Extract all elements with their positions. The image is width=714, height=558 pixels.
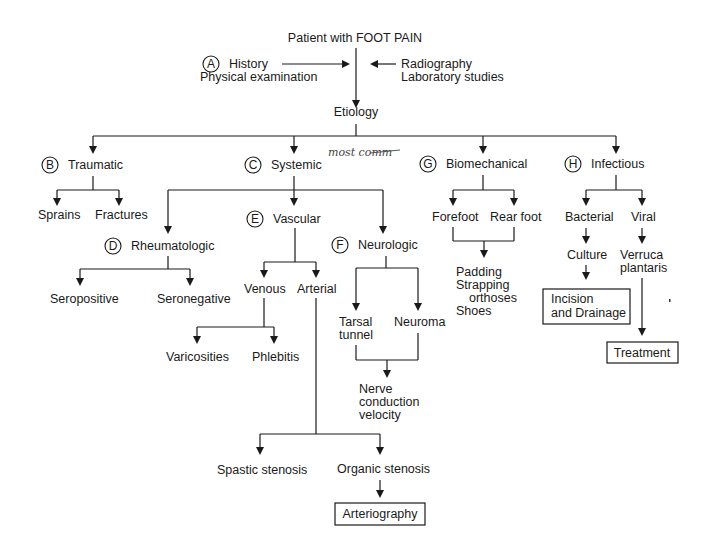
badge-g-letter: G	[423, 157, 432, 171]
node-d-rheumatologic: D Rheumatologic	[105, 238, 214, 254]
arrow-right-icon	[342, 60, 350, 68]
treatment-box: Treatment	[607, 342, 678, 363]
badge-f-letter: F	[336, 238, 343, 252]
node-radiography-lab: Radiography Laboratory studies	[370, 57, 504, 84]
badge-c-letter: C	[249, 158, 258, 172]
neuroma-label: Neuroma	[394, 315, 445, 329]
neurologic-label: Neurologic	[358, 238, 418, 252]
seropositive-label: Seropositive	[50, 292, 119, 306]
fractures-label: Fractures	[95, 208, 148, 222]
shoes-label: Shoes	[456, 304, 491, 318]
spastic-stenosis-label: Spastic stenosis	[217, 463, 307, 477]
node-f-neurologic: F Neurologic	[332, 237, 418, 253]
badge-h-letter: H	[569, 157, 578, 171]
rheumatologic-label: Rheumatologic	[131, 239, 214, 253]
systemic-label: Systemic	[271, 158, 322, 172]
rear-foot-label: Rear foot	[490, 210, 542, 224]
badge-b-letter: B	[46, 158, 54, 172]
ncv-label-1: Nerve	[359, 382, 392, 396]
traumatic-label: Traumatic	[68, 158, 123, 172]
lab-studies-label: Laboratory studies	[401, 70, 504, 84]
strapping-label: Strapping	[456, 278, 510, 292]
node-e-vascular: E Vascular	[247, 211, 321, 227]
incision-label: Incision	[551, 292, 593, 306]
handwritten-annotation: most comm	[328, 146, 392, 159]
physical-exam-label: Physical examination	[200, 70, 317, 84]
phlebitis-label: Phlebitis	[252, 350, 299, 364]
viral-label: Viral	[631, 210, 656, 224]
badge-d-letter: D	[109, 239, 118, 253]
node-g-biomechanical: G Biomechanical	[420, 156, 527, 172]
badge-a-letter: A	[207, 57, 215, 71]
history-label: History	[229, 57, 269, 71]
seronegative-label: Seronegative	[157, 292, 231, 306]
node-h-infectious: H Infectious	[565, 156, 645, 172]
node-a-history: A History Physical examination	[200, 56, 350, 84]
arteriography-box: Arteriography	[335, 503, 425, 525]
vascular-label: Vascular	[273, 212, 321, 226]
arteriography-label: Arteriography	[342, 507, 418, 521]
forefoot-label: Forefoot	[432, 210, 479, 224]
padding-label: Padding	[456, 265, 502, 279]
orthoses-label: orthoses	[469, 291, 517, 305]
foot-pain-flowchart: Patient with FOOT PAIN A History Physica…	[0, 0, 714, 558]
ncv-label-3: velocity	[359, 408, 401, 422]
drainage-label: and Drainage	[551, 306, 626, 320]
radiography-label: Radiography	[401, 57, 473, 71]
verruca-label: Verruca	[620, 248, 663, 262]
tarsal-tunnel-label-1: Tarsal	[339, 315, 372, 329]
node-c-systemic: C Systemic	[245, 157, 322, 173]
ncv-label-2: conduction	[359, 395, 420, 409]
culture-label: Culture	[567, 248, 607, 262]
badge-e-letter: E	[251, 212, 259, 226]
organic-stenosis-label: Organic stenosis	[337, 462, 430, 476]
root-title: Patient with FOOT PAIN	[288, 31, 422, 45]
incision-drainage-box: Incision and Drainage	[543, 289, 630, 324]
arterial-label: Arterial	[297, 282, 337, 296]
stray-mark	[669, 299, 671, 302]
node-b-traumatic: B Traumatic	[42, 157, 123, 173]
tarsal-tunnel-label-2: tunnel	[339, 328, 373, 342]
etiology-label: Etiology	[334, 105, 379, 119]
sprains-label: Sprains	[38, 208, 80, 222]
plantaris-label: plantaris	[620, 261, 667, 275]
varicosities-label: Varicosities	[166, 350, 229, 364]
bacterial-label: Bacterial	[565, 210, 614, 224]
venous-label: Venous	[244, 282, 286, 296]
infectious-label: Infectious	[591, 157, 645, 171]
biomechanical-label: Biomechanical	[446, 157, 527, 171]
arrow-left-icon	[370, 60, 378, 68]
treatment-label: Treatment	[614, 346, 671, 360]
